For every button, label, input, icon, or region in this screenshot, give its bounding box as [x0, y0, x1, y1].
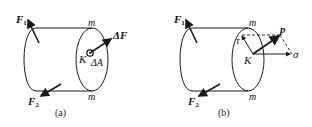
label-m-bottom: m [249, 92, 256, 102]
label-delta-f: ΔF [113, 30, 127, 41]
label-f2: F2 [28, 96, 39, 109]
label-f1: F1 [174, 14, 185, 27]
label-m-top: m [249, 18, 256, 28]
f2-arrow [41, 84, 61, 96]
label-m-bottom: m [88, 92, 95, 102]
f1-arrow [186, 20, 197, 43]
panel-b: F1 F2 m m p τ K σ (b) [156, 0, 312, 127]
label-tau: τ [236, 36, 240, 46]
cylinder-body [180, 28, 264, 91]
label-k: K [244, 55, 251, 66]
tau-arrow [242, 36, 253, 54]
label-f2: F2 [188, 96, 199, 109]
f2-arrow [199, 84, 220, 96]
label-f1: F1 [16, 14, 27, 27]
label-p: p [280, 24, 286, 35]
label-m-top: m [88, 18, 95, 28]
p-arrow [253, 36, 279, 54]
caption-a: (a) [55, 107, 66, 118]
caption-b: (b) [218, 107, 230, 118]
panel-a: F1 F2 m m ΔF K ΔA (a) [0, 0, 156, 127]
label-sigma: σ [293, 49, 298, 60]
label-delta-a: ΔA [91, 58, 103, 68]
label-k: K [79, 54, 86, 65]
